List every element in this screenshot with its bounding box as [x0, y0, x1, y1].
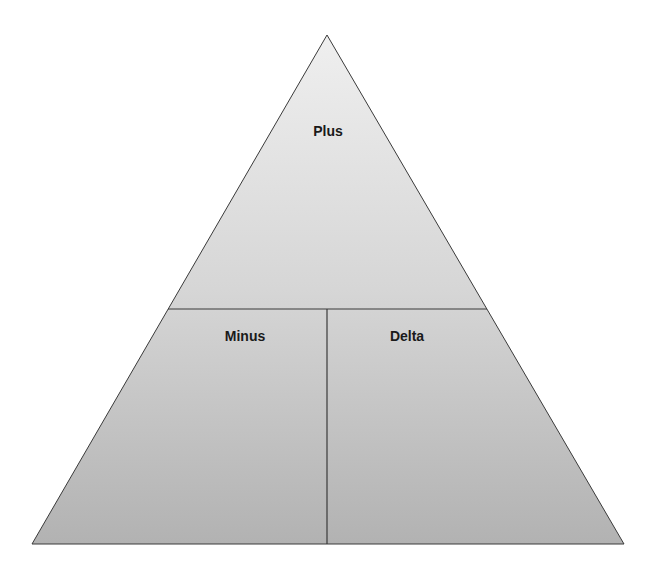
- pyramid-outline: [32, 35, 624, 544]
- section-label-plus: Plus: [313, 123, 343, 139]
- section-label-delta: Delta: [390, 328, 424, 344]
- section-label-minus: Minus: [225, 328, 265, 344]
- pyramid-diagram: [0, 0, 655, 575]
